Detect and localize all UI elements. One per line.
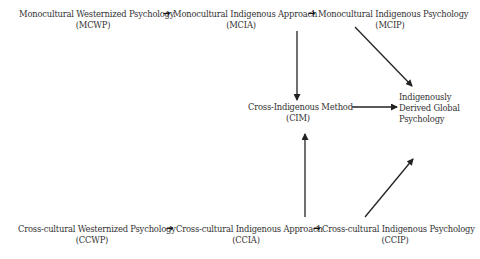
node-idgp: Indigenously Derived Global Psychology — [399, 92, 469, 125]
node-line: Indigenously — [399, 92, 469, 103]
arrow-ccia-to-ccip-icon: ➔ — [313, 223, 321, 233]
edge-ccip-to-idgp — [365, 159, 413, 217]
node-ccwp: Cross-cultural Westernized Psychology (C… — [18, 224, 166, 246]
node-label: Monocultural Westernized Psychology — [19, 9, 174, 19]
node-cim: Cross-Indigenous Method (CIM) — [248, 102, 348, 124]
node-abbr: (MCWP) — [19, 20, 167, 31]
node-label: Cross-cultural Westernized Psychology — [18, 224, 176, 234]
node-abbr: (CCWP) — [18, 235, 166, 246]
arrow-mcwp-to-mcia-icon: ➔ — [163, 8, 171, 18]
node-label: Monocultural Indigenous Approach — [173, 9, 317, 19]
node-label: Cross-Indigenous Method — [248, 102, 353, 112]
node-mcwp: Monocultural Westernized Psychology (MCW… — [19, 9, 167, 31]
arrow-mcia-to-mcip-icon: ➔ — [308, 8, 316, 18]
node-line: Psychology — [399, 114, 469, 125]
node-abbr: (CCIP) — [322, 235, 468, 246]
node-ccia: Cross-cultural Indigenous Approach (CCIA… — [176, 224, 316, 246]
diagram-edges — [0, 0, 480, 259]
node-abbr: (CCIA) — [176, 235, 316, 246]
node-mcia: Monocultural Indigenous Approach (MCIA) — [173, 9, 309, 31]
node-abbr: (CIM) — [248, 113, 348, 124]
node-label: Monocultural Indigenous Psychology — [318, 9, 468, 19]
arrow-ccwp-to-ccia-icon: ➔ — [166, 223, 174, 233]
edge-mcip-to-idgp — [355, 27, 412, 86]
node-abbr: (MCIP) — [318, 20, 462, 31]
node-line: Derived Global — [399, 103, 469, 114]
node-ccip: Cross-cultural Indigenous Psychology (CC… — [322, 224, 468, 246]
node-mcip: Monocultural Indigenous Psychology (MCIP… — [318, 9, 462, 31]
node-abbr: (MCIA) — [173, 20, 309, 31]
node-label: Cross-cultural Indigenous Psychology — [322, 224, 475, 234]
node-label: Cross-cultural Indigenous Approach — [176, 224, 323, 234]
